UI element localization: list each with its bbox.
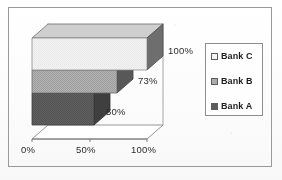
legend-swatch-bank-b [211,78,218,85]
legend-label-bank-a: Bank A [221,101,252,111]
x-tick-label-0: 0% [21,144,35,155]
legend-item-bank-c: Bank C [211,51,253,61]
chart-legend: Bank C Bank B Bank A [205,43,263,116]
plot-area: 100% 73% 50% 0% 50% 100% Bank C Bank B B… [0,0,282,180]
legend-item-bank-a: Bank A [211,101,252,111]
value-label-bank-c: 100% [168,45,193,56]
chart-floor [32,125,163,139]
value-label-bank-a: 50% [106,106,126,117]
bar-bank-c [32,24,163,70]
x-tick-label-50: 50% [76,144,96,155]
value-label-bank-b: 73% [138,75,158,86]
chart-screenshot: 100% 73% 50% 0% 50% 100% Bank C Bank B B… [0,0,282,180]
x-tick-label-100: 100% [131,144,156,155]
legend-swatch-bank-c [211,53,218,60]
x-axis [32,139,147,142]
legend-label-bank-b: Bank B [221,76,253,86]
legend-label-bank-c: Bank C [221,51,253,61]
legend-item-bank-b: Bank B [211,76,253,86]
legend-swatch-bank-a [211,103,218,110]
